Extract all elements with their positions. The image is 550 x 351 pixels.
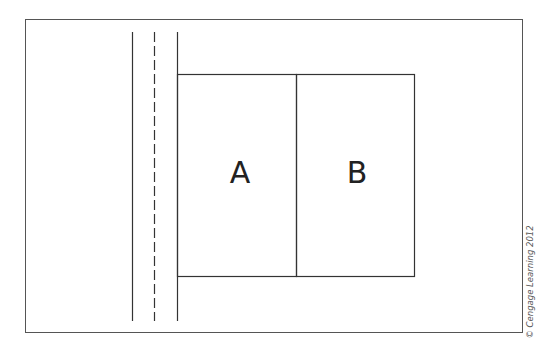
- lot-diagram: A B © Cengage Learning 2012: [0, 0, 550, 351]
- outer-frame: [26, 20, 523, 333]
- lot-a-label: A: [230, 155, 251, 190]
- lot-b-label: B: [347, 155, 368, 190]
- lots: A B: [178, 75, 415, 277]
- road: [133, 32, 178, 321]
- copyright-credit: © Cengage Learning 2012: [525, 225, 535, 338]
